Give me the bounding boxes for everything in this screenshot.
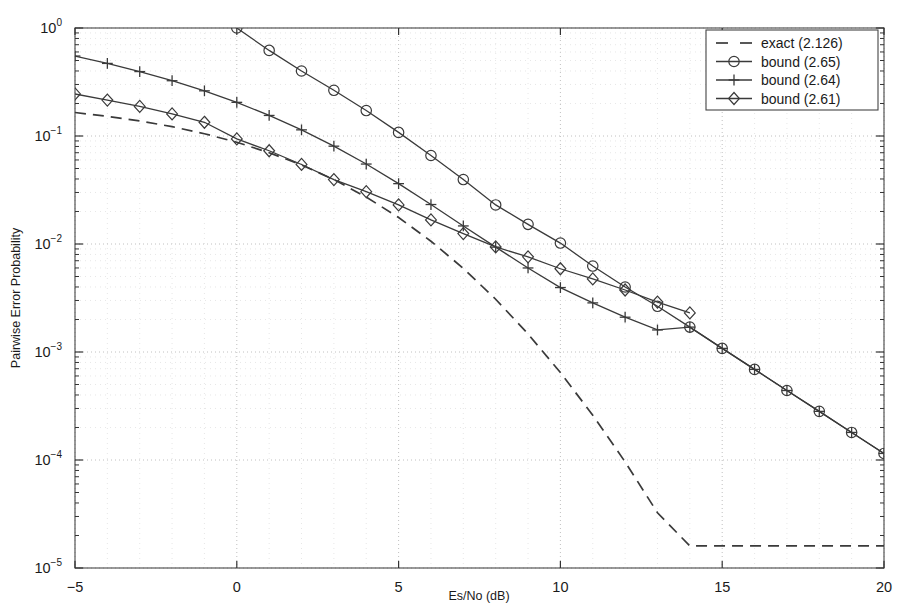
x-tick-label: 5: [395, 579, 403, 595]
figure-container: −50510152010010−110−210−310−410−5 Es/No …: [0, 0, 898, 616]
legend-label: bound (2.65): [761, 54, 840, 70]
x-tick-label: −5: [67, 579, 84, 595]
legend: exact (2.126)bound (2.65)bound (2.64)bou…: [706, 30, 878, 110]
chart-plot: −50510152010010−110−210−310−410−5 Es/No …: [0, 0, 898, 616]
legend-label: bound (2.64): [761, 72, 840, 88]
y-axis-label: Pairwise Error Probability: [9, 227, 23, 368]
x-tick-label: 15: [714, 579, 730, 595]
x-tick-label: 10: [552, 579, 568, 595]
x-tick-label: 20: [876, 579, 892, 595]
legend-label: exact (2.126): [761, 35, 843, 51]
x-tick-label: 0: [233, 579, 241, 595]
legend-label: bound (2.61): [761, 91, 840, 107]
x-axis-label: Es/No (dB): [448, 589, 509, 603]
